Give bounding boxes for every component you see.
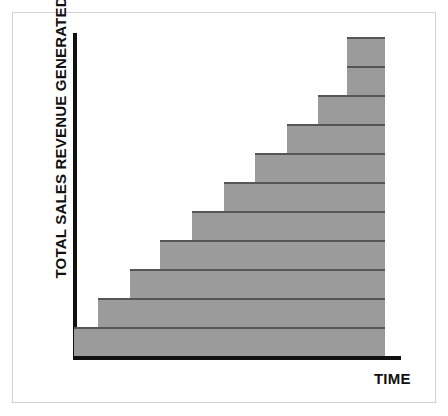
bar-segment xyxy=(347,37,385,66)
bar-segment xyxy=(318,95,385,124)
chart-canvas: TOTAL SALES REVENUE GENERATED TIME xyxy=(0,0,448,416)
bar-segment xyxy=(192,211,385,240)
bar-segment xyxy=(130,269,385,298)
bar-segment xyxy=(255,153,385,182)
plot-area: TOTAL SALES REVENUE GENERATED TIME xyxy=(0,0,448,416)
bar-segment xyxy=(74,327,385,356)
bar-segment xyxy=(347,66,385,95)
x-axis-line xyxy=(73,356,401,360)
x-axis-label: TIME xyxy=(374,370,411,387)
bar-segment xyxy=(224,182,385,211)
y-axis-line xyxy=(73,33,77,359)
bar-segment xyxy=(287,124,385,153)
bar-segment xyxy=(160,240,385,269)
y-axis-label: TOTAL SALES REVENUE GENERATED xyxy=(52,39,69,279)
bar-segment xyxy=(98,298,385,327)
